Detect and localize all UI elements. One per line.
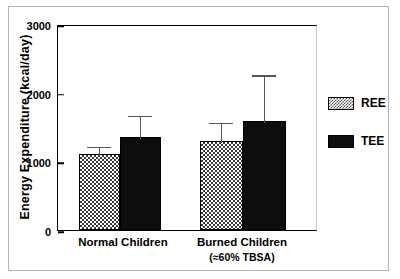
legend-item-ree: REE	[328, 96, 394, 110]
error-bar-burned-children-tee	[264, 75, 265, 122]
error-cap-normal-children-tee	[128, 116, 152, 117]
y-tick-mark-1000	[58, 163, 64, 165]
error-bar-normal-children-ree	[99, 147, 100, 156]
y-tick-mark-0	[58, 231, 64, 233]
x-axis-group-burned-children: Burned Children (≈60% TBSA)	[187, 235, 297, 265]
y-tick-mark-2000	[58, 94, 64, 96]
bar-burned-children-ree	[200, 141, 243, 230]
plot-area: 3000 2000 1000 0	[57, 25, 317, 231]
error-bar-normal-children-tee	[140, 116, 141, 139]
x-axis-group-normal-children-label: Normal Children	[68, 235, 178, 250]
legend-label-tee: TEE	[361, 134, 384, 148]
error-cap-burned-children-tee	[252, 75, 276, 76]
y-tick-mark-3000	[58, 25, 64, 27]
legend-swatch-tee-icon	[328, 135, 354, 148]
y-axis-title: Energy Expenditure (kcal/day)	[18, 17, 32, 237]
y-tick-label-1000: 1000	[27, 157, 58, 169]
error-cap-normal-children-ree	[87, 147, 111, 148]
error-cap-burned-children-ree	[209, 123, 233, 124]
bar-burned-children-tee	[243, 121, 286, 230]
x-axis-group-burned-children-sublabel: (≈60% TBSA)	[187, 250, 297, 265]
legend-item-tee: TEE	[328, 134, 394, 148]
error-bar-burned-children-ree	[221, 123, 222, 144]
legend-label-ree: REE	[361, 96, 386, 110]
legend-swatch-ree-icon	[328, 97, 354, 110]
legend: REE TEE	[328, 96, 394, 172]
x-axis-group-burned-children-label: Burned Children	[187, 235, 297, 250]
x-axis-group-normal-children: Normal Children	[68, 235, 178, 250]
bar-normal-children-tee	[120, 137, 161, 230]
y-tick-label-0: 0	[45, 226, 58, 238]
y-tick-label-3000: 3000	[27, 20, 58, 32]
y-tick-label-2000: 2000	[27, 89, 58, 101]
bar-normal-children-ree	[79, 154, 120, 230]
figure-container: Energy Expenditure (kcal/day) 3000 2000 …	[0, 0, 400, 279]
